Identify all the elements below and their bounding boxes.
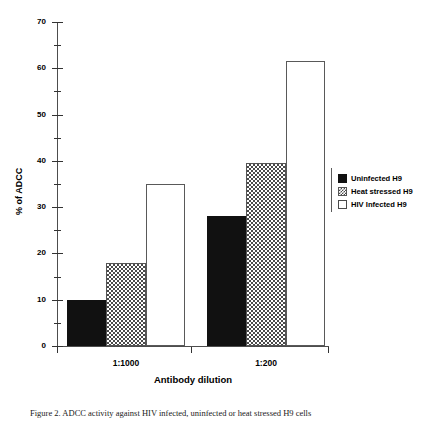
y-tick-major: 30 [52,207,63,208]
legend-label: Heat stressed H9 [351,188,413,196]
bar-heat-stressed-h9-1-1000 [106,263,145,346]
y-tick-label: 60 [37,64,46,72]
y-tick-label: 30 [37,203,46,211]
x-axis-line [57,346,329,347]
plot-area: 010203040506070 1:10001:200 Antibody dil… [57,22,329,347]
y-tick-minor [54,230,61,231]
y-tick-minor [54,277,61,278]
x-group-label-1-200: 1:200 [255,358,277,368]
figure-caption: Figure 2. ADCC activity against HIV infe… [30,408,430,419]
y-tick-label: 40 [37,157,46,165]
bar-uninfected-h9-1-1000 [67,300,106,346]
y-tick-label: 50 [37,111,46,119]
y-tick-major: 60 [52,68,63,69]
x-tick [57,347,58,353]
legend-swatch-icon [338,187,347,196]
legend-label: Uninfected H9 [351,175,402,183]
y-tick-label: 20 [37,249,46,257]
x-tick [328,347,329,353]
y-tick-minor [54,323,61,324]
y-tick-major: 10 [52,300,63,301]
legend: Uninfected H9Heat stressed H9HIV Infecte… [338,173,438,212]
y-axis-title: % of ADCC [14,168,24,215]
legend-swatch-icon [338,200,347,209]
legend-item-hiv-infected-h9: HIV Infected H9 [338,199,438,210]
x-tick [191,347,192,353]
legend-item-uninfected-h9: Uninfected H9 [338,173,438,184]
y-tick-label: 10 [37,296,46,304]
y-tick-major: 50 [52,115,63,116]
legend-divider [331,168,332,212]
y-tick-minor [54,91,61,92]
bar-heat-stressed-h9-1-200 [246,163,285,346]
x-axis-title: Antibody dilution [154,374,232,385]
x-group-label-1-1000: 1:1000 [113,358,139,368]
bar-hiv-infected-h9-1-1000 [146,184,185,346]
legend-label: HIV Infected H9 [351,201,407,209]
y-tick-label: 70 [37,18,46,26]
legend-item-heat-stressed-h9: Heat stressed H9 [338,186,438,197]
y-tick-label: 0 [42,342,46,350]
figure-adcc-bar-chart: 010203040506070 1:10001:200 Antibody dil… [0,0,442,422]
bar-hiv-infected-h9-1-200 [286,61,325,346]
y-tick-minor [54,138,61,139]
y-tick-minor [54,45,61,46]
y-tick-major: 20 [52,253,63,254]
y-tick-minor [54,184,61,185]
y-tick-major: 70 [52,22,63,23]
bar-uninfected-h9-1-200 [207,216,246,346]
y-tick-major: 40 [52,161,63,162]
legend-swatch-icon [338,174,347,183]
